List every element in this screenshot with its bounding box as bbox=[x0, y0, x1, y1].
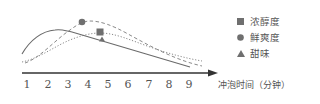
x-tick: 8 bbox=[166, 78, 173, 91]
x-axis-label: 冲泡时间（分钟） bbox=[218, 79, 290, 90]
circle-marker-icon bbox=[79, 19, 86, 26]
legend-label: 浓醇度 bbox=[250, 14, 280, 28]
series-line-xianshuangdu bbox=[25, 21, 202, 66]
x-tick: 2 bbox=[45, 78, 52, 91]
x-axis-ticks: 1 2 3 4 5 6 7 8 9 bbox=[24, 78, 193, 91]
triangle-marker-icon bbox=[99, 37, 105, 42]
legend-label: 鲜爽度 bbox=[250, 30, 280, 44]
legend-item-xianshuangdu: 鲜爽度 bbox=[236, 29, 280, 45]
legend-label: 甜味 bbox=[250, 46, 270, 60]
square-marker-icon bbox=[97, 29, 104, 36]
x-tick: 9 bbox=[186, 78, 193, 91]
x-tick: 3 bbox=[65, 78, 72, 91]
legend-item-nongchundu: 浓醇度 bbox=[236, 13, 280, 29]
x-tick: 4 bbox=[85, 78, 92, 91]
series-line-nongchundu bbox=[22, 33, 202, 62]
x-tick: 1 bbox=[24, 78, 31, 91]
chart-legend: 浓醇度 鲜爽度 甜味 bbox=[236, 13, 280, 61]
circle-icon bbox=[236, 33, 245, 42]
square-icon bbox=[236, 17, 245, 26]
x-tick: 6 bbox=[125, 78, 132, 91]
x-axis-arrow-icon bbox=[208, 70, 218, 77]
x-tick: 5 bbox=[105, 78, 112, 91]
x-tick: 7 bbox=[146, 78, 153, 91]
triangle-icon bbox=[236, 49, 245, 58]
legend-item-tianwei: 甜味 bbox=[236, 45, 280, 61]
